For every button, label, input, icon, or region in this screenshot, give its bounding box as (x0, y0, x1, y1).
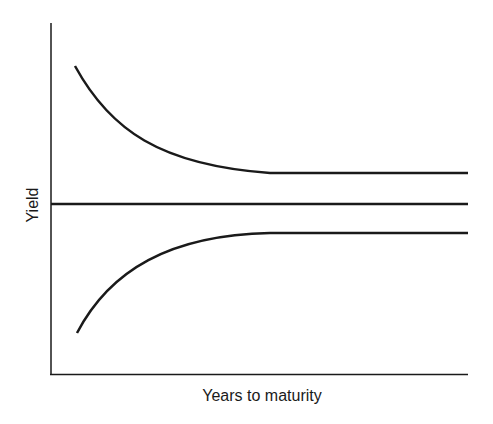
normal-yield-curve (77, 233, 468, 333)
yield-curve-chart: Years to maturity Yield (0, 0, 493, 424)
inverted-yield-curve (75, 66, 468, 173)
y-axis-label: Yield (24, 188, 41, 223)
x-axis-label: Years to maturity (202, 387, 321, 404)
